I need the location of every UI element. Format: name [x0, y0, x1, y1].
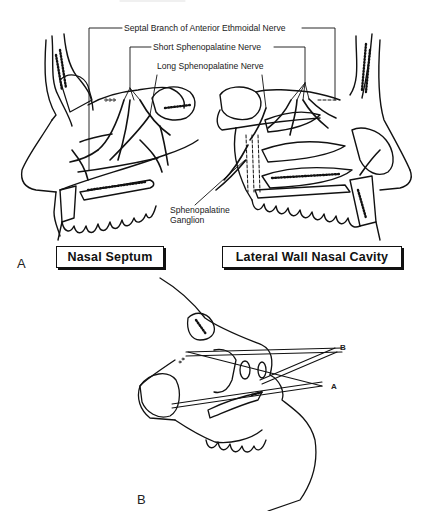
probe-label-b: B: [340, 343, 346, 352]
panel-letter-b: B: [137, 492, 146, 507]
label-ganglion-line1: Sphenopalatine: [170, 205, 230, 215]
anatomical-figure: Septal Branch of Anterior Ethmoidal Nerv…: [0, 0, 424, 511]
label-long-sphenopalatine: Long Sphenopalatine Nerve: [157, 61, 264, 71]
caption-nasal-septum: Nasal Septum: [56, 246, 164, 268]
probe-label-a: A: [331, 382, 337, 391]
leader-lines: [89, 28, 335, 205]
panel-b-drawing: [138, 278, 342, 511]
label-septal-branch: Septal Branch of Anterior Ethmoidal Nerv…: [124, 23, 285, 33]
panel-letter-a: A: [17, 256, 26, 271]
caption-lateral-wall: Lateral Wall Nasal Cavity: [222, 246, 402, 268]
label-ganglion-line2: Ganglion: [170, 215, 204, 225]
label-short-sphenopalatine: Short Sphenopalatine Nerve: [153, 42, 261, 52]
